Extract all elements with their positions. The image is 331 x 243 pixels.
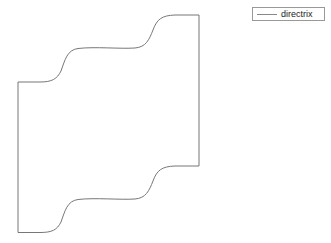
- legend-label: directrix: [281, 9, 313, 19]
- plot-area: [0, 0, 331, 243]
- legend: directrix: [252, 7, 325, 21]
- legend-line-swatch-icon: [257, 14, 277, 15]
- directrix-line: [18, 15, 199, 233]
